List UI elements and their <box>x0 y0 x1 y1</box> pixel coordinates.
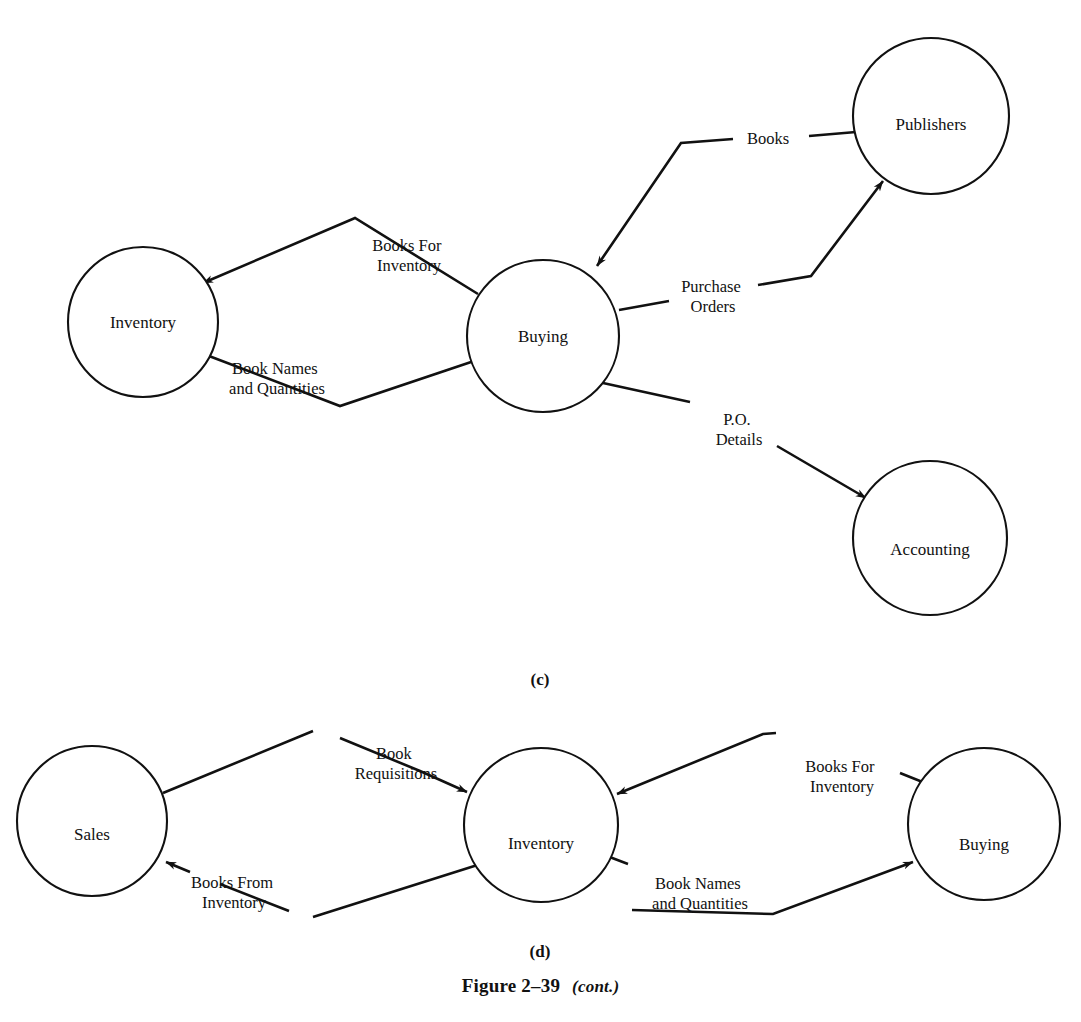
flow-book-names-quantities-d: Book Names and Quantities <box>607 856 913 914</box>
flow-label-line: Purchase <box>681 277 741 296</box>
figure-caption: Figure 2–39(cont.) <box>0 975 1081 997</box>
flow-book-names-quantities-c: Book Names and Quantities <box>209 356 483 406</box>
flow-line-book-requisitions-d <box>163 731 467 793</box>
node-publishers-c[interactable]: Publishers <box>853 38 1009 194</box>
flow-label-books-for-inventory-d: Books For Inventory <box>805 757 878 796</box>
node-label-inventory-c: Inventory <box>110 313 177 332</box>
flow-line-purchase-orders-c <box>619 181 883 310</box>
flow-line-books-for-inventory-d <box>617 733 925 794</box>
flow-line-books-c <box>597 132 856 266</box>
flow-books-from-inventory-d: Books From Inventory <box>166 862 487 917</box>
part-label-d: (d) <box>530 942 551 961</box>
flow-books-for-inventory-d: Books For Inventory <box>617 733 925 796</box>
node-sales-d[interactable]: Sales <box>17 746 167 896</box>
node-label-buying-c: Buying <box>518 327 569 346</box>
flow-label-po-details-c: P.O. Details <box>716 410 763 449</box>
figure-caption-cont: (cont.) <box>572 977 619 996</box>
flow-label-line: Inventory <box>377 256 442 275</box>
flow-label-purchase-orders-c: Purchase Orders <box>681 277 745 316</box>
node-buying-d[interactable]: Buying <box>908 748 1060 900</box>
part-c-group: Books For Inventory Book Names and Quant… <box>68 38 1009 689</box>
flow-label-line: Books For <box>372 236 442 255</box>
flow-label-line: Inventory <box>202 893 267 912</box>
flow-label-line: Book Names <box>655 874 741 893</box>
flow-label-book-names-quantities-c: Book Names and Quantities <box>229 359 325 398</box>
part-label-c: (c) <box>531 670 550 689</box>
node-inventory-d[interactable]: Inventory <box>464 748 618 902</box>
flow-label-line: and Quantities <box>229 379 325 398</box>
flow-label-book-names-quantities-d: Book Names and Quantities <box>652 874 748 913</box>
flow-label-books-from-inventory-d: Books From Inventory <box>191 873 277 912</box>
flow-label-line: Book <box>376 744 413 763</box>
flow-label-line: Books <box>747 129 789 148</box>
figure-root: Books For Inventory Book Names and Quant… <box>0 0 1081 1022</box>
node-circle-sales-d[interactable] <box>17 746 167 896</box>
node-label-publishers-c: Publishers <box>896 115 967 134</box>
flow-books-c: Books <box>597 129 856 266</box>
node-circle-inventory-d[interactable] <box>464 748 618 902</box>
flow-label-line: Books From <box>191 873 273 892</box>
node-buying-c[interactable]: Buying <box>467 260 619 412</box>
node-label-sales-d: Sales <box>74 825 110 844</box>
figure-caption-number: Figure 2–39 <box>462 975 560 996</box>
node-circle-accounting-c[interactable] <box>853 461 1007 615</box>
flow-label-line: Books For <box>805 757 875 776</box>
node-label-accounting-c: Accounting <box>890 540 970 559</box>
flow-po-details-c: P.O. Details <box>603 383 866 498</box>
flow-label-line: Requisitions <box>355 764 438 783</box>
node-inventory-c[interactable]: Inventory <box>68 247 218 397</box>
flow-label-books-for-inventory-c: Books For Inventory <box>372 236 445 275</box>
node-circle-buying-d[interactable] <box>908 748 1060 900</box>
flow-book-requisitions-d: Book Requisitions <box>163 731 467 793</box>
node-label-buying-d: Buying <box>959 835 1010 854</box>
part-d-group: Book Requisitions Books From Inventory B… <box>17 731 1060 961</box>
flow-label-line: Details <box>716 430 763 449</box>
flow-label-line: Book Names <box>232 359 318 378</box>
node-accounting-c[interactable]: Accounting <box>853 461 1007 615</box>
flow-label-line: Orders <box>691 297 736 316</box>
dataflow-diagram-canvas: Books For Inventory Book Names and Quant… <box>0 0 1081 1022</box>
node-label-inventory-d: Inventory <box>508 834 575 853</box>
flow-label-line: P.O. <box>723 410 751 429</box>
flow-label-line: Inventory <box>810 777 875 796</box>
flow-label-line: and Quantities <box>652 894 748 913</box>
flow-books-for-inventory-c: Books For Inventory <box>203 218 478 294</box>
flow-purchase-orders-c: Purchase Orders <box>619 181 883 316</box>
flow-label-books-c: Books <box>747 129 789 148</box>
